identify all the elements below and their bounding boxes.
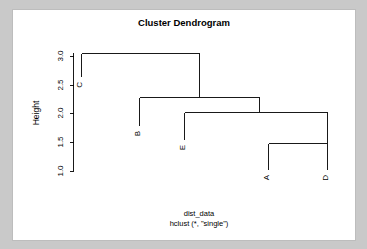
- link-merge-m1: [269, 144, 328, 171]
- y-tick-label-1-0: 1.0: [56, 165, 65, 177]
- y-tick-label-3-0: 3.0: [56, 50, 65, 62]
- leaf-label-e: E: [178, 145, 187, 150]
- plot-surface: Cluster Dendrogram 3.0 2.5 2.0 1.5: [13, 10, 355, 240]
- y-axis-tick-labels: 3.0 2.5 2.0 1.5 1.0: [56, 50, 65, 177]
- y-tick-label-1-5: 1.5: [56, 136, 65, 148]
- dendrogram-leaf-labels: C B E A D: [75, 82, 330, 181]
- dendrogram-links: [82, 54, 328, 171]
- link-merge-m3: [140, 98, 260, 127]
- link-merge-m2: [185, 113, 328, 144]
- leaf-label-b: B: [133, 131, 142, 136]
- y-axis-label: Height: [31, 100, 41, 125]
- y-axis-ticks: [70, 56, 74, 171]
- leaf-label-d: D: [321, 175, 330, 181]
- leaf-label-c: C: [75, 82, 84, 88]
- x-axis-label: dist_data: [184, 209, 215, 218]
- y-tick-label-2-0: 2.0: [56, 107, 65, 119]
- plot-title: Cluster Dendrogram: [138, 17, 230, 28]
- dendrogram-svg: Cluster Dendrogram 3.0 2.5 2.0 1.5: [13, 10, 355, 240]
- y-tick-label-2-5: 2.5: [56, 79, 65, 91]
- x-axis-sublabel: hclust (*, "single"): [170, 219, 229, 228]
- screenshot-canvas: Cluster Dendrogram 3.0 2.5 2.0 1.5: [0, 0, 367, 249]
- leaf-label-a: A: [262, 174, 271, 180]
- plot-frame: Cluster Dendrogram 3.0 2.5 2.0 1.5: [12, 9, 356, 241]
- link-merge-m4: [82, 54, 200, 98]
